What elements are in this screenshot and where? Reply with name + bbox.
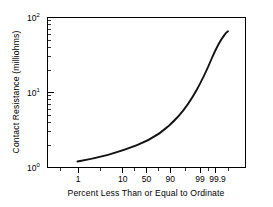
y-tick-label-1: 100 bbox=[27, 162, 40, 173]
x-axis-major-ticks bbox=[78, 168, 215, 173]
x-tick-label-50: 50 bbox=[142, 174, 152, 184]
x-axis-title: Percent Less Than or Equal to Ordinate bbox=[68, 188, 225, 198]
data-curve bbox=[78, 31, 229, 161]
x-tick-label-99-9: 99.9 bbox=[209, 174, 226, 184]
chart-figure: 102 101 100 1 10 50 90 99 99.9 Percent L… bbox=[0, 0, 273, 207]
y-tick-label-10: 101 bbox=[27, 87, 40, 98]
x-tick-label-1: 1 bbox=[76, 174, 81, 184]
chart-canvas: 102 101 100 1 10 50 90 99 99.9 Percent L… bbox=[0, 0, 273, 207]
y-tick-labels: 102 101 100 bbox=[27, 12, 40, 173]
plot-frame bbox=[48, 18, 246, 168]
y-axis-title: Contact Resistance (milliohms) bbox=[11, 31, 21, 154]
x-tick-label-99: 99 bbox=[195, 174, 205, 184]
x-tick-label-10: 10 bbox=[118, 174, 128, 184]
x-tick-label-90: 90 bbox=[165, 174, 175, 184]
x-tick-labels: 1 10 50 90 99 99.9 bbox=[76, 174, 226, 184]
y-tick-label-100: 102 bbox=[27, 12, 40, 23]
